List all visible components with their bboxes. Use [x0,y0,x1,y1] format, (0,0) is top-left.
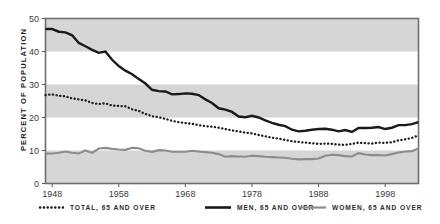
y-tick-label: 30 [29,80,39,90]
x-tick-label: 1978 [242,189,262,199]
plot-wrapper: 01020304050 194819581968197819881998 TOT… [0,0,440,224]
legend-label-2: WOMEN, 65 AND OVER [332,204,423,212]
background-bands [46,19,419,184]
y-tick-label: 10 [29,146,39,156]
chart-legend: TOTAL, 65 AND OVERMEN, 65 AND OVERWOMEN,… [40,204,423,212]
x-tick-label: 1958 [109,189,129,199]
x-tick-label: 1948 [42,189,62,199]
x-tick-label: 1998 [375,189,395,199]
line-chart-svg: 01020304050 194819581968197819881998 TOT… [0,0,440,224]
y-tick-label: 20 [29,113,39,123]
y-tick-label: 0 [34,179,39,189]
chart-container: PERCENT OF POPULATION 01020304050 194819… [0,0,440,224]
y-axis-ticks: 01020304050 [29,14,46,189]
legend-label-0: TOTAL, 65 AND OVER [70,204,156,212]
x-axis-ticks: 194819581968197819881998 [42,184,395,200]
x-tick-label: 1988 [309,189,329,199]
background-band-2 [46,19,419,52]
y-tick-label: 40 [29,47,39,57]
y-tick-label: 50 [29,14,39,24]
x-tick-label: 1968 [175,189,195,199]
